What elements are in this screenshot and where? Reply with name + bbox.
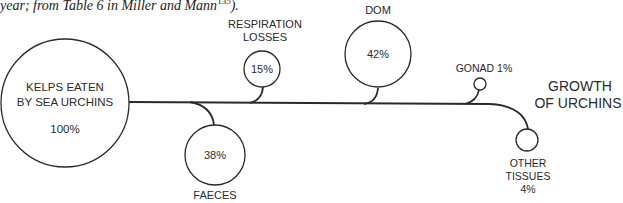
respiration-label-line1: RESPIRATION bbox=[228, 18, 302, 30]
source-label-line1: KELPS EATEN bbox=[26, 81, 104, 93]
growth-label-line1: GROWTH bbox=[548, 78, 612, 94]
other-tissues-label-line2: TISSUES bbox=[506, 170, 551, 182]
main-flow-line bbox=[129, 102, 490, 104]
faeces-branch bbox=[190, 102, 214, 125]
gonad-label: GONAD 1% bbox=[456, 62, 513, 74]
source-value: 100% bbox=[50, 123, 79, 135]
faeces-value: 38% bbox=[204, 149, 226, 161]
other-tissues-value: 4% bbox=[520, 183, 535, 195]
other-tissues-branch bbox=[490, 104, 528, 129]
dom-value: 42% bbox=[367, 48, 389, 60]
source-label-line2: BY SEA URCHINS bbox=[17, 96, 114, 108]
growth-label-line2: OF URCHINS bbox=[534, 95, 621, 111]
gonad-circle bbox=[474, 78, 486, 90]
gonad-branch bbox=[465, 90, 479, 104]
other-tissues-circle bbox=[516, 129, 538, 151]
respiration-label-line2: LOSSES bbox=[243, 31, 287, 43]
respiration-value: 15% bbox=[251, 63, 273, 75]
energy-flow-diagram: KELPS EATEN BY SEA URCHINS 100% RESPIRAT… bbox=[0, 0, 623, 203]
dom-branch bbox=[364, 88, 378, 104]
faeces-label: FAECES bbox=[193, 189, 236, 201]
respiration-branch bbox=[250, 87, 263, 103]
other-tissues-label-line1: OTHER bbox=[510, 157, 547, 169]
dom-label: DOM bbox=[365, 4, 391, 16]
